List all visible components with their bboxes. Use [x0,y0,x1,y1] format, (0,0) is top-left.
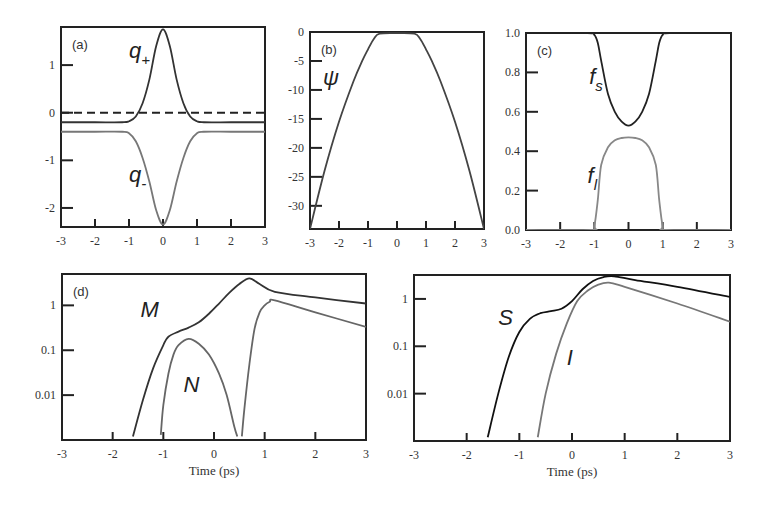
x-tick-label: -2 [90,234,100,248]
curve-label-c-1: fl [588,163,598,193]
curve-label-main: ψ [323,65,339,90]
y-tick-label: 0.0 [505,223,520,237]
y-tick-label: -20 [288,141,304,155]
x-tick-label: -2 [334,236,344,250]
series-line-fs [526,33,731,126]
x-tick-label: 1 [194,234,200,248]
curve-label-d-0: M [141,297,160,322]
x-tick-label: 2 [312,447,318,461]
curve-label-d-1: N [184,372,200,397]
curve-label-main: N [184,372,200,397]
series-line-qminus [61,132,265,225]
x-tick-label: -3 [57,447,67,461]
y-tick-label: 0.4 [505,144,520,158]
x-tick-label: -3 [521,237,531,251]
series-line-N2 [242,300,366,437]
x-tick-label: 0 [626,237,632,251]
x-tick-label: 2 [694,237,700,251]
x-tick-label: 0 [394,236,400,250]
x-tick-label: -1 [158,447,168,461]
y-tick-label: 0.1 [393,339,408,353]
x-tick-label: 3 [727,448,733,462]
y-tick-label: 0 [298,25,304,39]
panel-frame [526,33,731,230]
curve-label-subscript: + [141,51,150,68]
panel-label: (b) [321,42,337,57]
x-tick-label: 3 [728,237,734,251]
y-tick-label: 1.0 [505,26,520,40]
panel-frame [61,27,265,227]
series-line-qplus [61,29,265,122]
panel-label: (d) [73,284,89,299]
y-tick-label: -15 [288,112,304,126]
x-tick-label: 1 [660,237,666,251]
x-tick-label: -1 [363,236,373,250]
y-tick-label: -1 [45,153,55,167]
curve-label-a-1: q- [129,162,146,192]
panel-b: -3-2-101230-5-10-15-20-25-30ψ(b) [288,25,487,250]
x-tick-label: 1 [423,236,429,250]
y-tick-label: 0.6 [505,105,520,119]
panel-c: -3-2-101231.00.80.60.40.20.0fsfl(c) [505,26,734,251]
x-tick-label: 1 [622,448,628,462]
curve-label-subscript: l [594,176,598,193]
panel-d: -3-2-1012310.10.01MN(d)Time (ps) [35,274,369,478]
y-tick-label: 0.8 [505,65,520,79]
y-tick-label: 0.2 [505,184,520,198]
y-tick-label: -2 [45,201,55,215]
curve-label-main: q [129,38,142,63]
y-tick-label: 1 [402,292,408,306]
x-tick-label: -3 [409,448,419,462]
y-tick-label: -5 [294,54,304,68]
x-tick-label: -1 [589,237,599,251]
series-line-psi [310,33,484,229]
x-tick-label: 2 [674,448,680,462]
curve-label-main: M [141,297,160,322]
panel-label: (c) [537,43,552,58]
x-axis-title: Time (ps) [547,464,597,479]
x-tick-label: 1 [262,447,268,461]
x-tick-label: -3 [56,234,66,248]
y-tick-label: -30 [288,199,304,213]
x-tick-label: -1 [514,448,524,462]
curve-label-main: I [567,345,573,370]
curve-label-main: q [129,162,142,187]
x-tick-label: 3 [363,447,369,461]
curve-label-main: S [498,305,513,330]
curve-label-subscript: s [595,77,603,94]
x-tick-label: -1 [124,234,134,248]
x-tick-label: 3 [481,236,487,250]
y-tick-label: 0.01 [35,388,56,402]
y-tick-label: 0.1 [41,343,56,357]
y-tick-label: -10 [288,83,304,97]
x-tick-label: -2 [555,237,565,251]
curve-label-e-1: I [567,345,573,370]
panel-a: -3-2-1012310-1-2q+q-(a) [45,27,268,248]
series-line-fl [526,137,731,230]
x-tick-label: -2 [108,447,118,461]
curve-label-subscript: - [141,175,146,192]
figure-canvas: -3-2-1012310-1-2q+q-(a)-3-2-101230-5-10-… [0,0,768,511]
y-tick-label: 0.01 [387,387,408,401]
x-tick-label: 2 [228,234,234,248]
y-tick-label: 1 [50,298,56,312]
x-tick-label: 0 [160,234,166,248]
y-tick-label: -25 [288,170,304,184]
x-tick-label: 2 [452,236,458,250]
y-tick-label: 1 [49,58,55,72]
panel-label: (a) [72,37,88,52]
y-tick-label: 0 [49,106,55,120]
x-tick-label: -3 [305,236,315,250]
x-tick-label: 0 [569,448,575,462]
x-axis-title: Time (ps) [189,463,239,478]
x-tick-label: 0 [211,447,217,461]
curve-label-e-0: S [498,305,513,330]
curve-label-c-0: fs [589,64,603,94]
series-line-S [488,276,730,437]
panel-e: -3-2-1012310.10.01SITime (ps) [387,275,733,479]
curve-label-b-0: ψ [323,65,339,90]
x-tick-label: -2 [462,448,472,462]
curve-label-a-0: q+ [129,38,150,68]
x-tick-label: 3 [262,234,268,248]
